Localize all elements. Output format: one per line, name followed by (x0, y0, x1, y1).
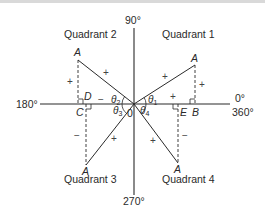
vertex-a-quadrant-1: A (190, 52, 198, 64)
right-angle-marker-d (78, 99, 83, 104)
right-angle-marker-c (86, 104, 91, 109)
right-angle-marker-b (190, 99, 195, 104)
vertex-a-quadrant-3: A (81, 165, 89, 177)
q1-opposite-sign: + (199, 79, 205, 90)
origin-label: 0 (127, 107, 133, 119)
theta-3-label: θ3 (113, 105, 122, 117)
quadrant-3-label: Quadrant 3 (64, 173, 117, 185)
quadrant-2-label: Quadrant 2 (64, 28, 117, 40)
foot-label-e: E (180, 106, 188, 118)
theta-4-label: θ4 (140, 105, 149, 117)
q3-opposite-sign: − (74, 130, 80, 141)
q2-opposite-sign: + (67, 76, 73, 87)
axis-label-360: 360° (232, 106, 254, 118)
theta-1-label: θ1 (148, 94, 157, 106)
vertex-a-quadrant-4: A (173, 163, 181, 175)
axis-label-90: 90° (125, 14, 141, 26)
axis-label-180: 180° (16, 98, 38, 110)
quadrant-1-label: Quadrant 1 (162, 28, 215, 40)
q2-hypotenuse-sign: + (103, 67, 109, 78)
axis-label-0: 0° (235, 92, 245, 104)
angle-arc-theta-3 (122, 104, 127, 113)
q1-adjacent-sign: + (170, 91, 176, 102)
foot-label-c: C (76, 106, 84, 118)
quadrant-diagram: 90° 180° 0° 360° 270° 0 Quadrant 1 Quadr… (0, 0, 265, 215)
angle-arc-theta-2 (122, 97, 125, 104)
q4-hypotenuse-sign: + (150, 135, 156, 146)
q2-adjacent-sign: − (98, 94, 104, 105)
vertex-a-quadrant-2: A (73, 46, 81, 58)
right-angle-marker-e (173, 104, 178, 109)
q3-hypotenuse-sign: + (111, 133, 117, 144)
q1-hypotenuse-sign: + (162, 71, 168, 82)
foot-label-b: B (192, 106, 199, 118)
foot-label-d: D (84, 90, 92, 102)
quadrant-4-label: Quadrant 4 (162, 173, 215, 185)
q4-opposite-sign: − (182, 130, 188, 141)
angle-arc-theta-1 (144, 98, 146, 105)
axis-label-270: 270° (123, 195, 145, 207)
